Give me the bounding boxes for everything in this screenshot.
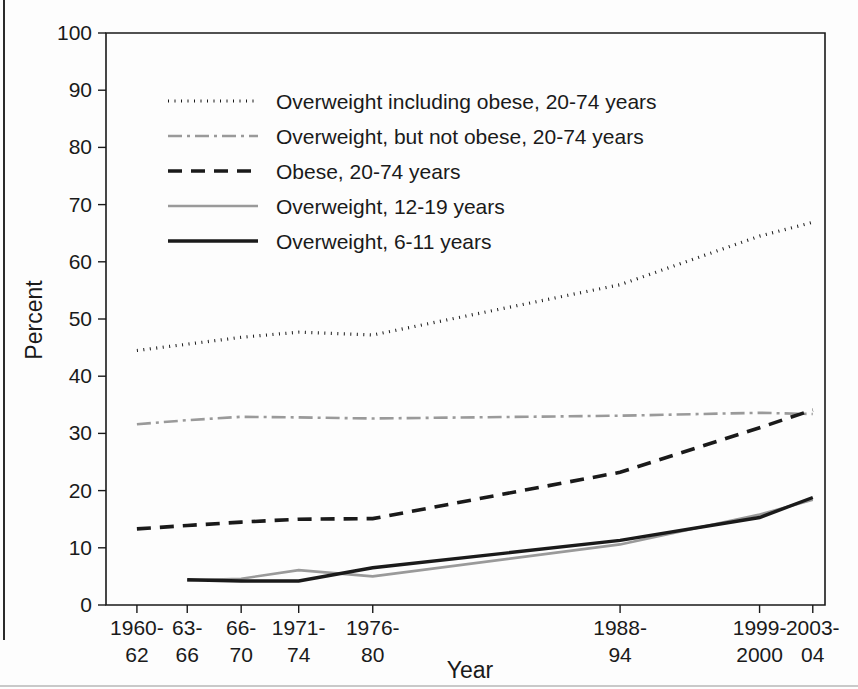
x-tick-label: 66 [176,643,199,666]
y-tick-label: 20 [69,479,92,502]
legend-label: Overweight including obese, 20-74 years [276,90,657,113]
y-tick-label: 80 [69,135,92,158]
x-tick-label: 1976- [346,616,400,639]
y-tick-label: 100 [57,21,92,44]
y-tick-label: 70 [69,193,92,216]
y-tick-label: 90 [69,78,92,101]
series-line-2 [137,413,813,424]
chart-legend: Overweight including obese, 20-74 yearsO… [168,90,657,253]
legend-label: Overweight, but not obese, 20-74 years [276,125,644,148]
x-tick-label: 74 [287,643,311,666]
y-tick-label: 30 [69,421,92,444]
y-tick-label: 0 [80,593,92,616]
x-tick-label: 94 [608,643,632,666]
x-tick-label: 2003- [786,616,840,639]
figure-container: 0102030405060708090100 1960-6263-6666-70… [0,0,858,689]
y-tick-label: 10 [69,536,92,559]
x-tick-label: 1999- [733,616,787,639]
data-series-group [137,222,813,581]
plot-frame [106,33,825,605]
legend-label: Overweight, 12-19 years [276,195,505,218]
x-tick-label: 62 [125,643,148,666]
series-line-4 [187,500,813,581]
y-tick-label: 40 [69,364,92,387]
x-tick-label: 04 [801,643,825,666]
series-line-5 [187,498,813,582]
x-tick-label: 70 [229,643,252,666]
y-axis: 0102030405060708090100 [57,21,106,616]
series-line-3 [137,410,813,529]
legend-label: Obese, 20-74 years [276,160,460,183]
y-axis-title: Percent [21,280,47,360]
x-tick-label: 66- [226,616,256,639]
x-tick-label: 2000 [736,643,783,666]
x-tick-label: 1960- [110,616,164,639]
x-tick-label: 63- [172,616,202,639]
y-tick-label: 60 [69,250,92,273]
legend-label: Overweight, 6-11 years [276,230,492,253]
x-axis-title: Year [447,657,494,683]
x-tick-label: 1971- [272,616,326,639]
x-tick-label: 80 [361,643,384,666]
x-tick-label: 1988- [593,616,647,639]
y-tick-label: 50 [69,307,92,330]
line-chart: 0102030405060708090100 1960-6263-6666-70… [0,0,858,689]
